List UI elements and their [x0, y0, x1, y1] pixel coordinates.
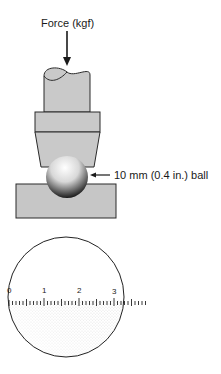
- scale-label-2: 2: [77, 287, 81, 295]
- ball-label: 10 mm (0.4 in.) ball: [114, 169, 208, 181]
- indenter-collar: [35, 112, 100, 132]
- scale-label-3: 3: [112, 288, 116, 296]
- diagram-canvas: Force (kgf) 10 mm (0.4 in.) ball 0 1 2 3: [0, 0, 221, 374]
- scale-label-1: 1: [42, 287, 46, 295]
- scale-label-0: 0: [7, 287, 11, 295]
- diagram-svg: [0, 0, 221, 374]
- indentation-magnified-view: [0, 237, 221, 374]
- down-arrow-icon: [63, 31, 71, 66]
- left-arrow-icon: [90, 173, 110, 178]
- force-label: Force (kgf): [41, 17, 94, 29]
- indenter-ball: [46, 156, 88, 198]
- indenter-shaft: [44, 68, 90, 112]
